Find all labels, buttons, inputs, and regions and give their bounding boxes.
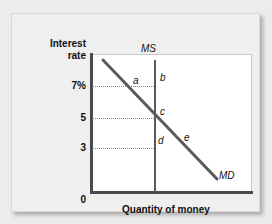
point-label-d: d (158, 135, 164, 146)
y-axis (90, 53, 93, 194)
money-demand-label: MD (219, 170, 235, 181)
gridline-3 (92, 148, 156, 149)
gridline-7 (92, 86, 156, 87)
y-tick-label-3: 3 (56, 142, 86, 153)
point-label-a: a (133, 75, 139, 86)
point-label-b: b (160, 72, 166, 83)
point-label-c: c (160, 106, 165, 117)
money-supply-label: MS (141, 43, 156, 54)
x-axis-title: Quantity of money (122, 204, 210, 215)
chart-figure: Interest rate 7% 5 3 0 MS MD a b c d e Q… (0, 0, 272, 224)
y-tick-label-0: 0 (56, 194, 86, 205)
y-axis-title-line1: Interest (24, 38, 86, 50)
figure-card: Interest rate 7% 5 3 0 MS MD a b c d e Q… (11, 13, 260, 212)
money-supply-line (154, 60, 156, 192)
y-axis-title: Interest rate (24, 38, 86, 61)
gridline-5 (92, 118, 156, 119)
y-tick-label-7: 7% (56, 80, 86, 91)
x-axis (90, 191, 253, 194)
point-label-e: e (184, 132, 190, 143)
y-tick-label-5: 5 (56, 112, 86, 123)
y-axis-title-line2: rate (24, 50, 86, 62)
